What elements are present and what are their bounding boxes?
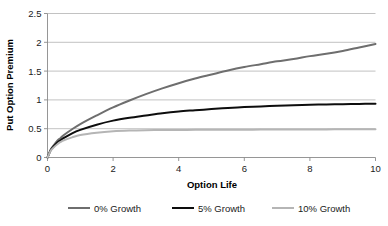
y-tick-label: 0 bbox=[36, 152, 41, 163]
y-tick-label: 0.5 bbox=[28, 123, 41, 134]
gridlines bbox=[48, 14, 376, 129]
chart-container: 00.511.522.5 0246810 Option Life Put Opt… bbox=[0, 0, 388, 226]
legend-label: 5% Growth bbox=[198, 203, 245, 214]
y-tick-label: 2 bbox=[36, 37, 41, 48]
x-tick-label: 0 bbox=[45, 163, 50, 174]
x-tick-label: 8 bbox=[307, 163, 312, 174]
y-tick-label: 1 bbox=[36, 94, 41, 105]
series-line bbox=[48, 129, 376, 157]
series-line bbox=[48, 44, 376, 157]
y-tick-label: 2.5 bbox=[28, 8, 41, 19]
x-tick-label: 6 bbox=[242, 163, 247, 174]
x-axis-title: Option Life bbox=[187, 179, 237, 190]
line-chart: 00.511.522.5 0246810 Option Life Put Opt… bbox=[0, 0, 388, 226]
x-tick-label: 10 bbox=[370, 163, 381, 174]
legend-label: 0% Growth bbox=[94, 203, 141, 214]
y-tick-label: 1.5 bbox=[28, 66, 41, 77]
data-series bbox=[48, 44, 376, 157]
y-axis-title: Put Option Premium bbox=[4, 39, 15, 131]
x-tick-label: 4 bbox=[176, 163, 181, 174]
legend-label: 10% Growth bbox=[298, 203, 350, 214]
x-tick-label: 2 bbox=[110, 163, 115, 174]
x-axis-tick-labels: 0246810 bbox=[45, 158, 381, 174]
y-axis-tick-labels: 00.511.522.5 bbox=[28, 8, 47, 163]
legend: 0% Growth5% Growth10% Growth bbox=[68, 203, 350, 214]
axes bbox=[48, 14, 376, 158]
